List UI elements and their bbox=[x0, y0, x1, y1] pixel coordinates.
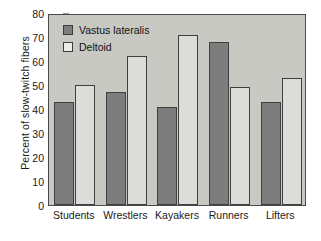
x-tick-label: Students bbox=[53, 210, 94, 221]
y-tick-label: 10 bbox=[18, 177, 44, 188]
bar-runners-vastus-lateralis bbox=[209, 42, 229, 205]
x-tick-label: Runners bbox=[209, 210, 249, 221]
y-tick-label: 60 bbox=[18, 57, 44, 68]
bar-wrestlers-vastus-lateralis bbox=[106, 92, 126, 205]
legend-item: Deltoid bbox=[63, 40, 149, 54]
y-tick-label: 30 bbox=[18, 129, 44, 140]
bar-lifters-deltoid bbox=[282, 78, 302, 205]
bar-kayakers-vastus-lateralis bbox=[157, 107, 177, 205]
y-tick-label: 80 bbox=[18, 9, 44, 20]
y-tick-label: 70 bbox=[18, 33, 44, 44]
legend-item: Vastus lateralis bbox=[63, 23, 149, 37]
bar-group bbox=[152, 15, 204, 205]
bar-kayakers-deltoid bbox=[178, 35, 198, 205]
bar-wrestlers-deltoid bbox=[127, 56, 147, 205]
legend-label: Vastus lateralis bbox=[79, 25, 149, 36]
legend-label: Deltoid bbox=[79, 42, 112, 53]
y-tick-label: 50 bbox=[18, 81, 44, 92]
bar-chart: Percent of slow-twitch fibers 0102030405… bbox=[0, 0, 321, 241]
legend-swatch-icon bbox=[63, 42, 73, 52]
bar-runners-deltoid bbox=[230, 87, 250, 205]
x-tick-label: Lifters bbox=[266, 210, 295, 221]
bar-group bbox=[255, 15, 307, 205]
y-tick-label: 40 bbox=[18, 105, 44, 116]
y-tick-label: 20 bbox=[18, 153, 44, 164]
plot-area: Vastus lateralisDeltoid bbox=[48, 14, 306, 206]
x-axis-tick-labels: StudentsWrestlersKayakersRunnersLifters bbox=[48, 210, 306, 230]
y-tick-label: 0 bbox=[18, 201, 44, 212]
x-tick-label: Kayakers bbox=[155, 210, 199, 221]
x-tick-label: Wrestlers bbox=[103, 210, 147, 221]
bar-students-vastus-lateralis bbox=[54, 102, 74, 205]
chart-legend: Vastus lateralisDeltoid bbox=[63, 23, 149, 54]
bar-lifters-vastus-lateralis bbox=[261, 102, 281, 205]
bar-students-deltoid bbox=[75, 85, 95, 205]
legend-swatch-icon bbox=[63, 25, 73, 35]
y-axis-tick-labels: 01020304050607080 bbox=[18, 0, 44, 241]
bar-group bbox=[204, 15, 256, 205]
